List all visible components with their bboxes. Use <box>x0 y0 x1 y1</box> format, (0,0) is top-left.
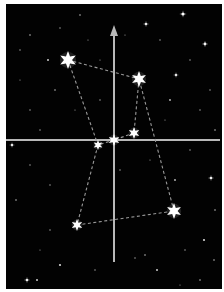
background-star-dot <box>49 229 50 230</box>
background-star-dot <box>209 89 210 90</box>
background-star-dot <box>49 184 50 185</box>
background-star-dot <box>79 14 81 16</box>
background-star-dot <box>214 129 216 131</box>
background-star-dot <box>99 59 100 60</box>
arrow-up-icon <box>110 25 118 36</box>
background-stars <box>10 11 216 286</box>
background-star-dot <box>189 149 190 150</box>
background-star-dot <box>39 129 40 130</box>
background-star-dot <box>29 34 31 36</box>
background-star-dot <box>54 89 56 91</box>
constellation-link-B-C <box>134 79 139 133</box>
background-star-dot <box>94 269 95 270</box>
constellation-diagram <box>0 0 224 292</box>
background-star-dot <box>199 109 200 110</box>
background-star-dot <box>124 34 125 35</box>
background-star-dot <box>169 99 171 101</box>
background-star-dot <box>156 269 158 271</box>
background-star-dot <box>29 164 30 165</box>
constellation-link-A-E <box>68 60 98 145</box>
background-star-dot <box>134 257 135 258</box>
constellation-link-A-B <box>68 60 139 79</box>
constellation-link-G-B <box>139 79 174 211</box>
background-star-dot <box>19 79 20 80</box>
background-star-dot <box>179 284 180 285</box>
background-star-dot <box>59 264 61 266</box>
background-star-dot <box>174 179 176 181</box>
background-star-dot <box>189 59 190 60</box>
background-star-dot <box>47 59 49 61</box>
background-star-dot <box>39 249 40 250</box>
background-star-dot <box>74 109 75 110</box>
constellation-lines <box>68 60 174 225</box>
background-star-dot <box>87 39 88 40</box>
background-star-dot <box>213 259 215 261</box>
background-star-dot <box>36 279 38 281</box>
background-star-dot <box>144 254 146 256</box>
background-star-dot <box>19 49 20 50</box>
constellation-link-E-F <box>77 145 98 225</box>
background-star-dot <box>119 169 120 170</box>
background-star-dot <box>203 239 205 241</box>
background-star-dot <box>184 249 185 250</box>
background-star-dot <box>15 199 17 201</box>
background-star-dot <box>199 279 201 281</box>
background-star-dot <box>214 209 216 211</box>
constellation-link-F-G <box>77 211 174 225</box>
background-star-dot <box>149 159 150 160</box>
background-star-dot <box>59 27 60 28</box>
background-star-dot <box>159 39 160 40</box>
background-star-dot <box>164 119 165 120</box>
background-star-dot <box>99 99 100 100</box>
background-star-dot <box>29 109 30 110</box>
